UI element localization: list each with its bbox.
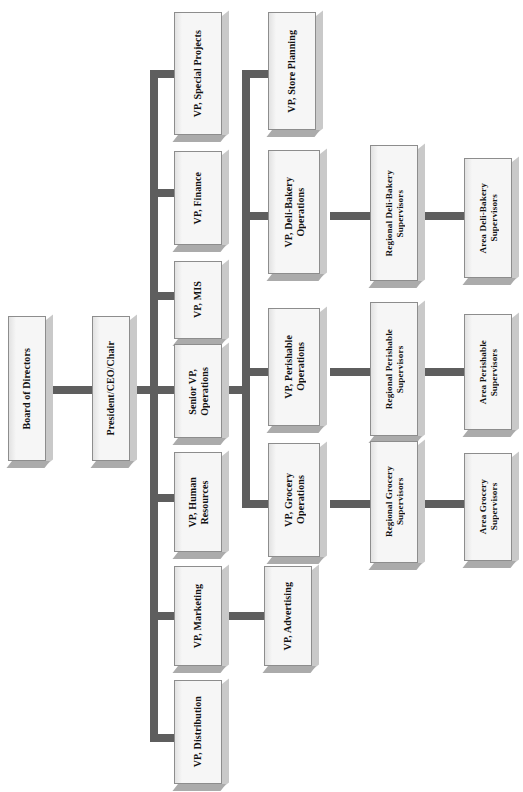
box-front-face: VP, Special Projects [174,12,222,135]
node-label: VP, Store Planning [286,28,298,115]
node-label: VP, Finance [192,170,204,226]
box-bottom-face [267,274,324,281]
box-front-face: VP, Perishable Operations [268,308,320,426]
connector-ops-vp-perishable [242,368,268,376]
box-bottom-face [369,281,422,288]
box-side-face [222,11,229,139]
box-front-face: VP, Advertising [264,566,312,666]
node-vp-grocery-operations[interactable]: VP, Grocery Operations [268,443,320,557]
box-bottom-face [463,430,516,437]
node-vp-store-planning[interactable]: VP, Store Planning [268,12,316,130]
connector-trunk-vp-distribution [150,734,174,742]
box-side-face [320,149,327,278]
node-vp-special-projects[interactable]: VP, Special Projects [174,12,222,135]
connector-grocery-regional [330,500,370,508]
connector-regional-area-grocery [424,500,464,508]
node-label: President/CEO/Chair [105,339,117,438]
connector-trunk-vp-marketing [150,612,174,620]
box-bottom-face [91,461,134,468]
box-side-face [222,343,229,442]
box-front-face: VP, Grocery Operations [268,443,320,557]
node-label: VP, Marketing [192,582,204,650]
connector-regional-area-deli [424,212,464,220]
box-bottom-face [267,426,324,433]
node-area-perishable-supervisors[interactable]: Area Perishable Supervisors [464,314,512,430]
node-regional-perishable-supervisors[interactable]: Regional Perishable Supervisors [370,302,418,436]
connector-trunk-vp-hr [150,494,174,502]
trunk-operations [242,70,250,508]
node-label: Regional Perishable Supervisors [384,327,405,411]
box-side-face [222,150,229,249]
node-vp-finance[interactable]: VP, Finance [174,151,222,245]
node-vp-deli-bakery-operations[interactable]: VP, Deli-Bakery Operations [268,150,320,274]
box-bottom-face [263,666,316,673]
box-bottom-face [463,278,516,285]
connector-trunk-vp-finance [150,189,174,197]
trunk-executive [150,70,158,742]
node-label: Regional Deli-Bakery Supervisors [384,168,405,258]
node-vp-perishable-operations[interactable]: VP, Perishable Operations [268,308,320,426]
box-side-face [130,315,137,465]
box-side-face [222,565,229,670]
box-front-face: Regional Grocery Supervisors [370,441,418,563]
node-regional-grocery-supervisors[interactable]: Regional Grocery Supervisors [370,441,418,563]
box-bottom-face [173,784,226,791]
box-bottom-face [369,563,422,570]
box-front-face: VP, Deli-Bakery Operations [268,150,320,274]
node-label: VP, Grocery Operations [283,471,306,529]
node-vp-advertising[interactable]: VP, Advertising [264,566,312,666]
node-vp-mis[interactable]: VP, MIS [174,261,222,339]
node-label: VP, MIS [192,279,204,320]
node-vp-human-resources[interactable]: VP, Human Resources [174,452,222,552]
connector-trunk-svp-operations [150,386,174,394]
node-label: Area Deli-Bakery Supervisors [478,181,499,256]
connector-perishable-regional [330,368,370,376]
org-chart: Board of Directors President/CEO/Chair V… [0,0,523,792]
box-side-face [512,452,519,565]
box-front-face: Area Perishable Supervisors [464,314,512,430]
box-bottom-face [173,438,226,445]
box-side-face [320,442,327,561]
box-front-face: VP, Human Resources [174,452,222,552]
connector-ops-vp-grocery [242,500,268,508]
box-side-face [512,157,519,282]
box-bottom-face [173,135,226,142]
box-front-face: Regional Deli-Bakery Supervisors [370,145,418,281]
connector-ops-vp-deli-bakery [242,212,268,220]
node-president-ceo-chair[interactable]: President/CEO/Chair [92,316,130,461]
node-label: VP, Distribution [192,694,204,769]
node-label: VP, Advertising [282,580,294,652]
node-label: VP, Deli-Bakery Operations [283,175,306,250]
box-bottom-face [173,666,226,673]
box-front-face: President/CEO/Chair [92,316,130,461]
connector-board-president [46,386,95,394]
box-bottom-face [463,561,516,568]
node-senior-vp-operations[interactable]: Senior VP, Operations [174,344,222,438]
node-area-grocery-supervisors[interactable]: Area Grocery Supervisors [464,453,512,561]
node-area-deli-bakery-supervisors[interactable]: Area Deli-Bakery Supervisors [464,158,512,278]
box-front-face: Senior VP, Operations [174,344,222,438]
node-regional-deli-bakery-supervisors[interactable]: Regional Deli-Bakery Supervisors [370,145,418,281]
box-front-face: Board of Directors [8,316,46,461]
node-vp-distribution[interactable]: VP, Distribution [174,680,222,784]
box-bottom-face [7,461,50,468]
node-vp-marketing[interactable]: VP, Marketing [174,566,222,666]
connector-trunk-vp-mis [150,292,174,300]
box-side-face [222,679,229,788]
node-label: Area Grocery Supervisors [478,477,499,536]
box-side-face [46,315,53,465]
node-label: VP, Special Projects [192,28,204,119]
box-front-face: VP, MIS [174,261,222,339]
connector-ops-vp-store-planning [242,70,268,78]
box-side-face [418,301,425,440]
node-label: Regional Grocery Supervisors [384,464,405,539]
box-front-face: VP, Distribution [174,680,222,784]
node-board-of-directors[interactable]: Board of Directors [8,316,46,461]
node-label: Board of Directors [21,346,33,432]
box-side-face [512,313,519,434]
node-label: Area Perishable Supervisors [478,338,499,406]
box-bottom-face [173,245,226,252]
connector-deli-regional [330,212,370,220]
connector-trunk-vp-special [150,70,174,78]
connector-regional-area-perishable [424,368,464,376]
